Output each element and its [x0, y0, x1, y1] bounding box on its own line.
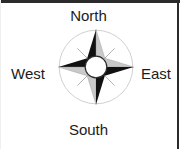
compass-center-hub	[85, 56, 107, 78]
label-east: East	[141, 66, 171, 82]
frame-top-border	[0, 0, 180, 3]
compass-rose-figure: North South West East	[0, 0, 192, 149]
label-north: North	[0, 8, 177, 24]
compass-rose-icon	[56, 27, 136, 107]
label-west: West	[11, 66, 45, 82]
label-south: South	[0, 122, 177, 138]
frame-right-border	[177, 0, 179, 149]
